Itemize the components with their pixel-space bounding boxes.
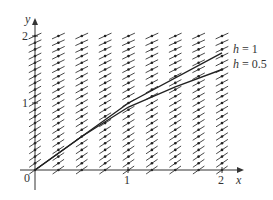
slope-dot <box>81 102 84 105</box>
slope-dot <box>197 48 200 51</box>
slope-dot <box>197 155 200 158</box>
slope-dot <box>197 122 200 125</box>
slope-dot <box>151 142 154 145</box>
x-tick-label-2: 2 <box>218 173 224 187</box>
slope-dot <box>174 48 177 51</box>
slope-dot <box>104 35 107 38</box>
slope-dot <box>57 129 60 132</box>
origin-label: 0 <box>24 171 30 185</box>
slope-dot <box>81 75 84 78</box>
slope-dot <box>151 82 154 85</box>
slope-dot <box>81 62 84 65</box>
slope-dot <box>197 62 200 65</box>
slope-dot <box>57 115 60 118</box>
slope-dot <box>221 142 224 145</box>
y-axis-arrow-icon <box>32 18 38 25</box>
legend-h-0-5: h = 0.5 <box>233 57 267 71</box>
slope-dot <box>174 122 177 125</box>
slope-dot <box>151 35 154 38</box>
slope-dot <box>81 115 84 118</box>
slope-dot <box>104 162 107 165</box>
slope-dot <box>57 135 60 138</box>
slope-dot <box>151 108 154 111</box>
slope-dot <box>127 68 130 71</box>
slope-dot <box>57 35 60 38</box>
slope-dot <box>127 48 130 51</box>
slope-dot <box>221 149 224 152</box>
slope-dot <box>197 68 200 71</box>
slope-dot <box>57 142 60 145</box>
slope-dot <box>151 162 154 165</box>
slope-dot <box>104 82 107 85</box>
slope-dot <box>151 129 154 132</box>
slope-dot <box>127 162 130 165</box>
slope-dot <box>127 75 130 78</box>
slope-dot <box>104 88 107 91</box>
slope-dot <box>104 129 107 132</box>
legend-h-1: h = 1 <box>233 42 258 56</box>
slope-dot <box>127 35 130 38</box>
slope-dot <box>221 95 224 98</box>
slope-dot <box>221 115 224 118</box>
slope-dot <box>151 149 154 152</box>
slope-dot <box>197 102 200 105</box>
slope-dot <box>81 41 84 44</box>
slope-dot <box>197 162 200 165</box>
slope-dot <box>104 149 107 152</box>
slope-dot <box>151 115 154 118</box>
slope-dot <box>174 55 177 58</box>
slope-dot <box>197 108 200 111</box>
slope-dot <box>151 41 154 44</box>
slope-dot <box>127 62 130 65</box>
slope-dot <box>127 142 130 145</box>
slope-dot <box>104 108 107 111</box>
slope-dot <box>57 82 60 85</box>
slope-dot <box>81 149 84 152</box>
slope-dot <box>127 122 130 125</box>
slope-dot <box>104 155 107 158</box>
y-axis-label: y <box>24 12 31 26</box>
slope-dot <box>127 155 130 158</box>
slope-dot <box>221 75 224 78</box>
slope-dot <box>221 162 224 165</box>
slope-dot <box>221 135 224 138</box>
slope-dot <box>221 102 224 105</box>
slope-dot <box>174 62 177 65</box>
slope-dot <box>104 62 107 65</box>
slope-dot <box>127 55 130 58</box>
slope-dot <box>197 35 200 38</box>
slope-dot <box>81 35 84 38</box>
slope-dot <box>197 41 200 44</box>
slope-dot <box>57 122 60 125</box>
slope-dot <box>197 135 200 138</box>
slope-dot <box>81 68 84 71</box>
slope-dot <box>174 35 177 38</box>
slope-dot <box>221 35 224 38</box>
slope-dot <box>81 142 84 145</box>
slope-dot <box>57 75 60 78</box>
slope-dot <box>57 102 60 105</box>
slope-dot <box>127 135 130 138</box>
slope-dot <box>57 155 60 158</box>
slope-dot <box>221 62 224 65</box>
slope-dot <box>197 149 200 152</box>
slope-dot <box>174 115 177 118</box>
slope-dot <box>57 55 60 58</box>
slope-dot <box>57 108 60 111</box>
slope-dot <box>81 122 84 125</box>
slope-dot <box>197 75 200 78</box>
slope-dot <box>81 48 84 51</box>
slope-dot <box>151 102 154 105</box>
slope-dot <box>104 115 107 118</box>
slope-dot <box>197 82 200 85</box>
slope-dot <box>221 108 224 111</box>
slope-dot <box>174 135 177 138</box>
slope-dot <box>221 155 224 158</box>
slope-dot <box>104 102 107 105</box>
slope-dot <box>174 95 177 98</box>
y-tick-label-1: 1 <box>22 96 28 110</box>
slope-dot <box>221 48 224 51</box>
slope-dot <box>197 55 200 58</box>
slope-dot <box>127 115 130 118</box>
slope-dot <box>174 129 177 132</box>
